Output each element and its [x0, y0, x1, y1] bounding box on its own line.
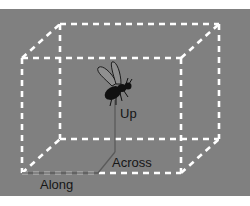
axis-label-along: Along — [40, 178, 73, 191]
cube-edge-depth-top-left — [22, 24, 60, 58]
cube-edge-depth-top-right — [181, 24, 219, 58]
cube-edge-depth-bottom-left — [22, 139, 60, 173]
cube-edge-depth-bottom-right — [181, 139, 219, 173]
axis-label-up: Up — [120, 107, 137, 120]
fly-icon — [98, 62, 132, 106]
axis-label-across: Across — [112, 156, 152, 169]
cube-diagram — [0, 0, 250, 206]
